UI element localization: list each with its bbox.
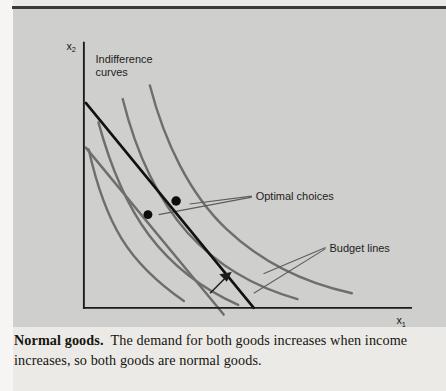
optimal-choices-label: Optimal choices (256, 190, 335, 202)
indifference-curve-2 (98, 122, 238, 305)
leader-lines-group (159, 196, 326, 293)
axes-group (84, 43, 411, 308)
optimal-choice-high-income (171, 196, 181, 206)
leader-line-budget-upper (263, 248, 325, 274)
figure-page: x2 x1 Indifference curves Optimal choice… (0, 0, 446, 391)
caption-heading: Normal goods (14, 332, 100, 348)
budget-lines-label: Budget lines (329, 242, 390, 254)
figure-panel: x2 x1 Indifference curves Optimal choice… (13, 9, 446, 327)
y-axis-label: x2 (66, 40, 75, 55)
leader-line-budget-lower (254, 249, 326, 294)
indifference-curve-diagram: x2 x1 Indifference curves Optimal choice… (13, 9, 446, 327)
figure-caption: Normal goods.The demand for both goods i… (14, 330, 434, 370)
caption-heading-suffix: . (100, 332, 104, 348)
budget-line-low-income (86, 148, 224, 315)
page-left-gutter (0, 0, 13, 391)
optimal-choice-low-income (143, 210, 152, 219)
x-axis-label: x1 (396, 314, 405, 327)
indifference-curves-label: Indifference curves (96, 53, 156, 78)
income-increase-arrow (210, 273, 230, 293)
indifference-curve-1 (89, 150, 184, 301)
